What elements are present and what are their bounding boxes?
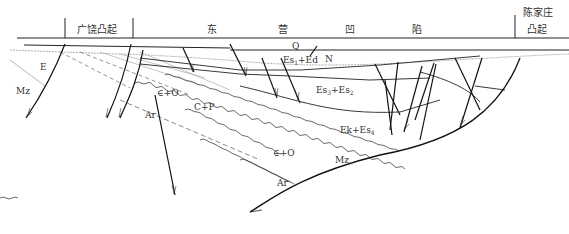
region-label-guangrao-uplift: 广饶凸起 [77,24,117,36]
region-label-ao: 凹 [345,24,355,36]
region-label-ying: 营 [278,24,288,36]
stratum-label-ar-lower: Ar [277,178,288,188]
region-label-xian: 陷 [412,24,422,36]
stratum-label-es3-es2: Es3+Es2 [316,85,354,98]
fault-slip-arrows [27,65,465,194]
stratum-label-mz-right: Mz [335,155,349,165]
cp-dashed [120,100,260,160]
region-label-dong: 东 [207,24,217,36]
stratum-label-e: E [40,62,47,72]
stratum-label-q: Q [292,41,299,51]
region-label-chenjiazhuang: 陈家庄 [523,7,553,19]
detachment-arrow [250,204,262,212]
stratum-label-carboniferous-permian: C+P [194,102,214,112]
stratum-label-cambrian-ordovician-upper: ∈+O [157,88,179,98]
stratum-label-n: N [325,54,333,64]
region-label-uplift: 凸起 [527,24,547,36]
stratum-label-cambrian-ordovician-lower: ∈+O [273,148,295,158]
geologic-cross-section: 广饶凸起 东 营 凹 陷 陈家庄 凸起 Q N E Mz Es1+Ed Es3+… [0,0,569,234]
stratum-label-ek-es4: Ek+Es4 [340,125,375,138]
stratum-label-mz-left: Mz [16,86,30,96]
stratum-label-ar-upper: Ar [145,110,156,120]
left-dashed-strata [10,52,230,95]
stratum-label-es1-ed: Es1+Ed [283,55,318,68]
